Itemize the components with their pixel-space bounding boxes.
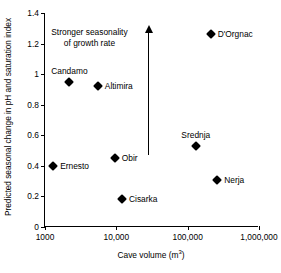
data-point-label: Altimira [105,81,133,91]
x-axis-tick-mark [45,226,46,230]
x-axis-title: Cave volume (m3) [44,250,258,260]
y-axis-tick-label: 0.6 [27,130,39,140]
data-point-marker [191,141,201,151]
data-point-label: Cisarka [129,194,157,204]
y-axis-tick-label: 0.2 [27,191,39,201]
x-axis-tick-label: 1,000,000 [240,232,277,242]
y-axis-tick-mark [41,44,45,45]
data-point-label: Candamo [51,66,87,76]
annotation-text-line-1: Stronger seasonality [51,27,127,38]
x-axis-tick-label: 10,000 [104,232,130,242]
y-axis-tick-mark [41,105,45,106]
data-point-label: Srednja [181,130,210,140]
y-axis-tick-mark [41,74,45,75]
y-axis-tick-mark [41,13,45,14]
data-point-label: Obir [122,153,138,163]
data-point-marker [212,175,222,185]
data-point-label: Ernesto [60,161,89,171]
y-axis-tick-mark [41,135,45,136]
x-axis-tick-mark [259,226,260,230]
annotation-arrow-shaft [148,31,149,155]
x-axis-tick-label: 1000 [36,232,55,242]
data-point-marker [117,195,127,205]
x-axis-tick-mark [188,226,189,230]
y-axis-tick-label: 1 [34,69,39,79]
chart-figure: Predicted seasonal change in pH and satu… [0,0,281,273]
y-axis-tick-label: 0.4 [27,161,39,171]
data-point-marker [206,29,216,39]
annotation-arrow-head [145,25,153,33]
y-axis-tick-label: 1.2 [27,39,39,49]
data-point-marker [93,81,103,91]
y-axis-tick-mark [41,196,45,197]
data-point-marker [64,77,74,87]
data-point-label: D'Orgnac [218,29,253,39]
x-axis-tick-mark [116,226,117,230]
annotation-text-line-2: of growth rate [51,38,127,49]
x-axis-title-text: Cave volume (m [117,250,178,260]
y-axis-tick-mark [41,166,45,167]
y-axis-title: Predicted seasonal change in pH and satu… [1,0,15,237]
x-axis-tick-label: 100,000 [173,232,203,242]
data-point-marker [110,153,120,163]
y-axis-tick-label: 1.4 [27,8,39,18]
y-axis-tick-label: 0 [34,222,39,232]
y-axis-tick-label: 0.8 [27,100,39,110]
data-point-marker [48,161,58,171]
data-point-label: Nerja [224,175,244,185]
x-axis-title-paren: ) [182,250,185,260]
plot-area: 00.20.40.60.811.21.4 100010,000100,0001,… [44,13,258,227]
annotation-text: Stronger seasonalityof growth rate [51,27,127,49]
